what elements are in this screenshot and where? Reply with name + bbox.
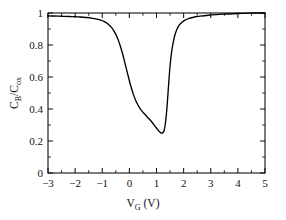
x-tick-label: 4	[235, 177, 241, 189]
x-tick-label: 1	[154, 177, 160, 189]
x-tick-label: −2	[69, 177, 81, 189]
figure-container: −3−2−1012345 00.20.40.60.81 VG (V) CB/Co…	[0, 0, 286, 220]
y-axis-title-slash: /C	[8, 85, 20, 96]
y-tick-label: 0.4	[29, 103, 43, 115]
x-tick-label: 2	[181, 177, 187, 189]
y-tick-label: 0	[38, 167, 44, 179]
y-tick-label: 1	[38, 7, 44, 19]
y-tick-label: 0.2	[29, 135, 43, 147]
x-axis-tick-labels: −3−2−1012345	[42, 177, 268, 189]
cv-curve-chart: −3−2−1012345 00.20.40.60.81 VG (V) CB/Co…	[0, 0, 286, 220]
x-tick-label: 0	[127, 177, 133, 189]
x-tick-label: −3	[42, 177, 54, 189]
y-tick-label: 0.6	[29, 71, 43, 83]
x-tick-label: −1	[96, 177, 108, 189]
x-tick-label: 5	[262, 177, 268, 189]
y-axis-title-subscript-2: ox	[14, 77, 23, 85]
x-axis-title-unit: (V)	[144, 197, 160, 210]
y-tick-label: 0.8	[29, 39, 43, 51]
x-tick-label: 3	[208, 177, 214, 189]
